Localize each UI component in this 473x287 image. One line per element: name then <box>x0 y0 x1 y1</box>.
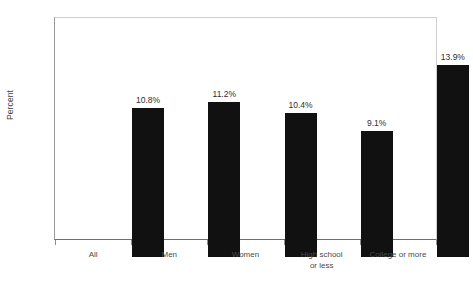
x-tick-mark <box>284 240 285 245</box>
x-category-label: Men <box>131 250 207 261</box>
bar-value-label: 10.4% <box>271 100 331 110</box>
x-category-label: All <box>55 250 131 261</box>
y-axis-title: Percent <box>5 70 15 140</box>
bar-value-label: 9.1% <box>347 118 407 128</box>
x-tick-mark <box>436 240 437 245</box>
bar[interactable] <box>361 131 393 257</box>
plot-area: 10.8%11.2%10.4%9.1%13.9% <box>54 17 437 240</box>
bar[interactable] <box>208 102 240 257</box>
x-tick-mark <box>207 240 208 245</box>
bar[interactable] <box>285 113 317 257</box>
x-category-label: College or more <box>360 250 436 261</box>
bar-value-label: 11.2% <box>194 89 254 99</box>
bar[interactable] <box>437 65 469 257</box>
x-category-label-line: or less <box>284 261 360 272</box>
x-category-label-line: High school <box>284 250 360 261</box>
x-tick-mark <box>55 240 56 245</box>
x-category-label-line: All <box>55 250 131 261</box>
x-tick-mark <box>131 240 132 245</box>
bar-slot: 10.8% <box>132 36 164 257</box>
x-category-label: High schoolor less <box>284 250 360 271</box>
bar[interactable] <box>132 108 164 257</box>
bars-layer: 10.8%11.2%10.4%9.1%13.9% <box>110 36 473 257</box>
x-tick-mark <box>360 240 361 245</box>
bar-slot: 13.9% <box>437 36 469 257</box>
bar-slot: 10.4% <box>285 36 317 257</box>
bar-value-label: 10.8% <box>118 95 178 105</box>
bar-slot: 9.1% <box>361 36 393 257</box>
x-category-label-line: College or more <box>360 250 436 261</box>
x-category-label: Women <box>207 250 283 261</box>
x-category-label-line: Women <box>207 250 283 261</box>
x-category-label-line: Men <box>131 250 207 261</box>
bar-slot: 11.2% <box>208 36 240 257</box>
bar-value-label: 13.9% <box>423 52 473 62</box>
